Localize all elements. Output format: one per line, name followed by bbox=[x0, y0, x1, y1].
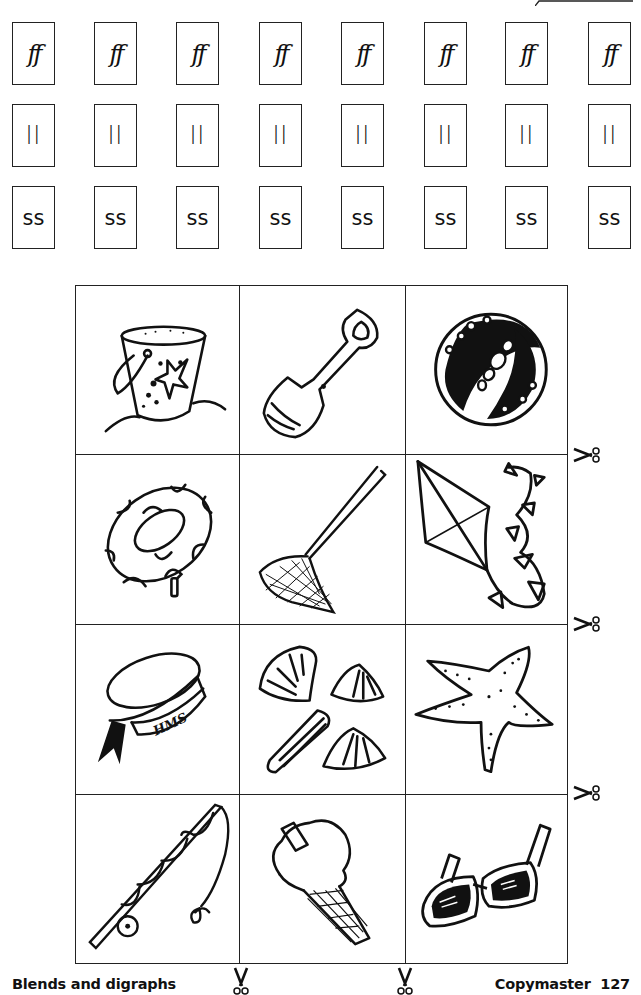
picture-card-sunglasses[interactable] bbox=[406, 795, 567, 963]
letter-card-ll[interactable]: ll bbox=[588, 104, 631, 167]
letter-card-ff[interactable]: ff bbox=[424, 22, 467, 85]
letter-card-ss[interactable]: ss bbox=[176, 186, 219, 249]
letter-card-ff[interactable]: ff bbox=[176, 22, 219, 85]
letter-card-ll[interactable]: ll bbox=[12, 104, 55, 167]
scissors-icon bbox=[572, 783, 602, 803]
starfish-icon bbox=[406, 625, 567, 794]
scissors-icon bbox=[395, 966, 415, 995]
kite-icon bbox=[406, 455, 567, 624]
spade-icon bbox=[240, 286, 405, 454]
letter-card-ss[interactable]: ss bbox=[94, 186, 137, 249]
letter-card-ss[interactable]: ss bbox=[259, 186, 302, 249]
picture-card-fishing-rod[interactable] bbox=[76, 795, 240, 963]
letter-card-ll[interactable]: ll bbox=[94, 104, 137, 167]
fishing-rod-icon bbox=[76, 795, 239, 963]
letter-card-ff[interactable]: ff bbox=[588, 22, 631, 85]
beach-ball-icon bbox=[406, 286, 567, 454]
letter-card-ff[interactable]: ff bbox=[505, 22, 548, 85]
letter-card-ll[interactable]: ll bbox=[505, 104, 548, 167]
picture-card-kite[interactable] bbox=[406, 455, 567, 625]
picture-card-spade[interactable] bbox=[240, 286, 406, 455]
letter-card-ff[interactable]: ff bbox=[94, 22, 137, 85]
scissors-icon bbox=[572, 614, 602, 634]
footer-page-number: Copymaster 127 bbox=[495, 976, 630, 992]
letter-card-ss[interactable]: ss bbox=[12, 186, 55, 249]
letter-card-ll[interactable]: ll bbox=[341, 104, 384, 167]
letter-card-ff[interactable]: ff bbox=[12, 22, 55, 85]
sailor-hat-icon: HMS bbox=[76, 625, 239, 794]
letter-card-ss[interactable]: ss bbox=[505, 186, 548, 249]
picture-card-bucket[interactable] bbox=[76, 286, 240, 455]
shells-icon bbox=[240, 625, 405, 794]
letter-card-ll[interactable]: ll bbox=[176, 104, 219, 167]
page-tab-outline bbox=[535, 0, 633, 6]
picture-card-shells[interactable] bbox=[240, 625, 406, 795]
bucket-icon bbox=[76, 286, 239, 454]
letter-card-ss[interactable]: ss bbox=[424, 186, 467, 249]
scissors-icon bbox=[572, 445, 602, 465]
picture-card-ball[interactable] bbox=[406, 286, 567, 455]
footer-section-title: Blends and digraphs bbox=[12, 976, 176, 992]
letter-card-ll[interactable]: ll bbox=[424, 104, 467, 167]
letter-card-ff[interactable]: ff bbox=[341, 22, 384, 85]
sunglasses-icon bbox=[406, 795, 567, 963]
rubber-ring-icon bbox=[76, 455, 239, 624]
picture-card-grid: HMS bbox=[75, 285, 568, 964]
picture-card-fishing-net[interactable] bbox=[240, 455, 406, 625]
letter-card-ll[interactable]: ll bbox=[259, 104, 302, 167]
picture-card-rubber-ring[interactable] bbox=[76, 455, 240, 625]
fishing-net-icon bbox=[240, 455, 405, 624]
letter-card-ff[interactable]: ff bbox=[259, 22, 302, 85]
picture-card-starfish[interactable] bbox=[406, 625, 567, 795]
picture-card-ice-cream[interactable] bbox=[240, 795, 406, 963]
ice-cream-icon bbox=[240, 795, 405, 963]
letter-card-ss[interactable]: ss bbox=[588, 186, 631, 249]
letter-card-ss[interactable]: ss bbox=[341, 186, 384, 249]
scissors-icon bbox=[231, 966, 251, 995]
picture-card-sailor-hat[interactable]: HMS bbox=[76, 625, 240, 795]
